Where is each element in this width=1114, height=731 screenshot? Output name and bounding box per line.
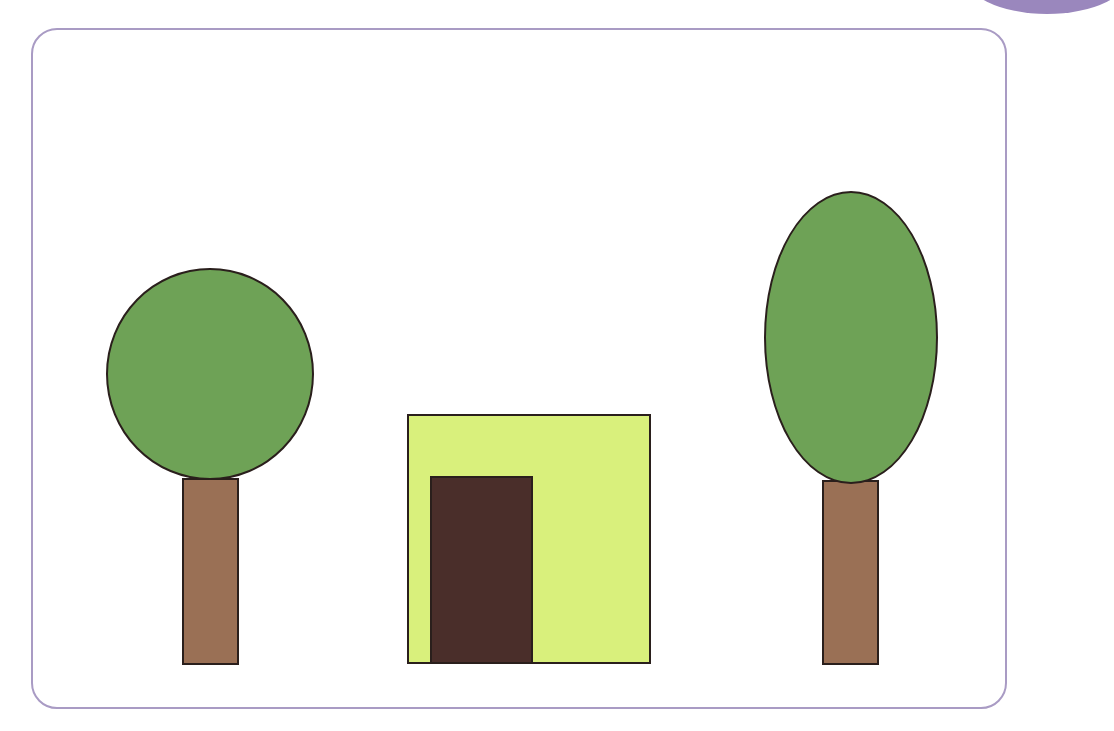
house-door [430,476,533,664]
corner-tab-decoration [962,0,1114,14]
left-tree-trunk [182,478,239,665]
left-tree-crown [106,268,314,480]
right-tree-crown [764,191,938,484]
right-tree-trunk [822,480,879,665]
